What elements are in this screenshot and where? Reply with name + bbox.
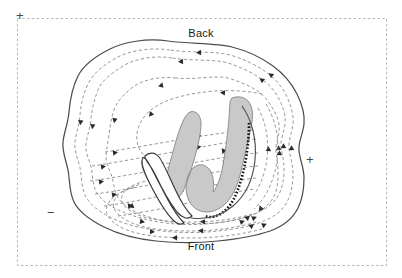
polarity-marker-left: − <box>47 206 55 219</box>
right-side-isoline-arrows <box>266 146 283 155</box>
figure-container: Back Front + + − <box>0 0 402 278</box>
polarity-marker-top-left: + <box>16 9 24 22</box>
polarity-marker-right: + <box>306 153 314 166</box>
right-isoline-b <box>254 104 278 209</box>
orientation-label-front: Front <box>0 240 402 252</box>
page-border <box>18 19 387 266</box>
contour-map-svg <box>0 0 402 278</box>
orientation-label-back: Back <box>0 27 402 39</box>
